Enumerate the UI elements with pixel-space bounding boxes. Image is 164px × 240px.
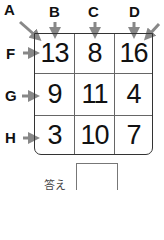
cell-h-b: 3 [35, 116, 75, 154]
cell-f-b: 13 [35, 34, 75, 74]
cell-h-c: 10 [75, 116, 115, 154]
answer-box[interactable] [76, 163, 118, 190]
number-grid: 13 8 16 9 11 4 3 10 7 [34, 33, 153, 155]
cell-g-d: 4 [115, 74, 152, 116]
cell-f-c: 8 [75, 34, 115, 74]
cell-h-d: 7 [115, 116, 152, 154]
cell-g-c: 11 [75, 74, 115, 116]
answer-label: 答え [44, 176, 66, 190]
cell-f-d: 16 [115, 34, 152, 74]
cell-g-b: 9 [35, 74, 75, 116]
